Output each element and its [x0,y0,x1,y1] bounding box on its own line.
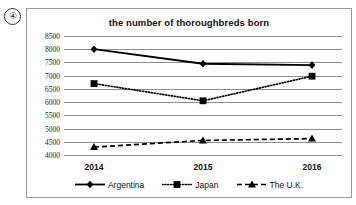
data-point-marker [200,97,207,104]
data-point-marker [91,80,98,87]
legend-sample-square-icon [162,179,192,190]
legend-item[interactable]: The U.K. [237,179,304,190]
series-line [94,76,312,101]
y-axis-tick-label: 7500 [45,58,60,67]
data-point-marker [309,73,316,80]
data-point-marker [87,181,94,189]
legend-label: Argentina [108,180,144,190]
chart-title: the number of thoroughbreds born [27,17,351,28]
y-axis-tick-label: 5000 [45,124,60,133]
x-axis-tick-label: 2015 [194,162,213,172]
data-point-marker [91,45,98,53]
series-argentina [91,45,316,68]
legend-sample-triangle-icon [237,179,267,190]
y-axis-tick-label: 6500 [45,84,60,93]
chart-legend: ArgentinaJapanThe U.K. [27,179,351,190]
chart-frame: the number of thoroughbreds born 8500800… [26,8,352,198]
legend-item[interactable]: Japan [162,179,218,190]
y-axis-tick-label: 4000 [45,151,60,160]
question-number-marker: ④ [4,8,21,25]
series-lines-group [64,36,342,155]
data-point-marker [308,135,316,142]
chart-page: ④ the number of thoroughbreds born 85008… [0,0,356,205]
series-japan [91,73,316,104]
x-axis-tick-label: 2014 [85,162,104,172]
data-point-marker [200,60,207,68]
x-axis-tick-label: 2016 [303,162,322,172]
legend-label: The U.K. [270,180,304,190]
legend-label: Japan [195,180,218,190]
legend-sample-diamond-icon [75,179,105,190]
y-axis-tick-label: 6000 [45,98,60,107]
legend-item[interactable]: Argentina [75,179,144,190]
y-axis-tick-label: 7000 [45,71,60,80]
gridline [64,155,342,156]
y-axis-tick-label: 8500 [45,32,60,41]
y-axis-tick-label: 4500 [45,137,60,146]
y-axis-tick-label: 8000 [45,45,60,54]
y-axis-tick-label: 5500 [45,111,60,120]
data-point-marker [174,181,181,188]
plot-area: 8500800075007000650060005500500045004000… [64,36,342,155]
data-point-marker [309,61,316,69]
series-the-u-k [90,135,316,150]
